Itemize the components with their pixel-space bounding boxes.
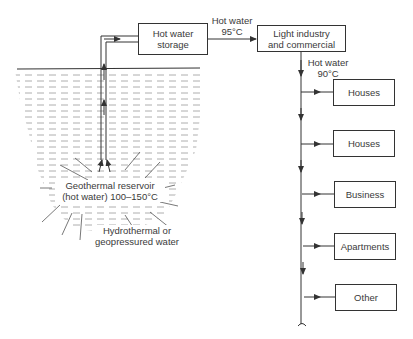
industry-line-1: Light industry (268, 28, 335, 39)
consumer-box-houses-1: Houses (333, 79, 395, 106)
source-label: Hydrothermal or geopressured water (92, 225, 182, 247)
reservoir-label-line2: (hot water) 100–150°C (55, 191, 165, 202)
flow-label-90c-line1: Hot water (303, 57, 353, 68)
storage-line-2: storage (153, 39, 194, 50)
flow-label-95c-line2: 95°C (207, 26, 257, 37)
distribution-trunk (298, 52, 306, 326)
flow-label-95c: Hot water 95°C (207, 15, 257, 37)
reservoir-hatching (15, 68, 202, 232)
storage-line-1: Hot water (153, 28, 194, 39)
consumer-box-houses-2: Houses (333, 130, 395, 157)
consumer-label: Houses (348, 138, 380, 149)
consumer-box-apartments: Apartments (334, 233, 396, 260)
hot-water-storage-box: Hot waterstorage (138, 23, 208, 55)
source-label-line2: geopressured water (92, 236, 182, 247)
flow-label-90c-line2: 90°C (303, 68, 353, 79)
distribution-branches (301, 92, 335, 297)
consumer-label: Apartments (341, 241, 390, 252)
reservoir-label: Geothermal reservoir (hot water) 100–150… (55, 180, 165, 202)
flow-label-90c: Hot water 90°C (303, 57, 353, 79)
light-industry-box: Light industryand commercial (257, 25, 346, 52)
consumer-label: Houses (348, 87, 380, 98)
consumer-box-other: Other (335, 284, 397, 311)
consumer-label: Business (346, 189, 385, 200)
flow-label-95c-line1: Hot water (207, 15, 257, 26)
consumer-label: Other (354, 292, 378, 303)
consumer-box-business: Business (334, 181, 396, 208)
reservoir-label-line1: Geothermal reservoir (55, 180, 165, 191)
industry-line-2: and commercial (268, 39, 335, 50)
source-label-line1: Hydrothermal or (92, 225, 182, 236)
